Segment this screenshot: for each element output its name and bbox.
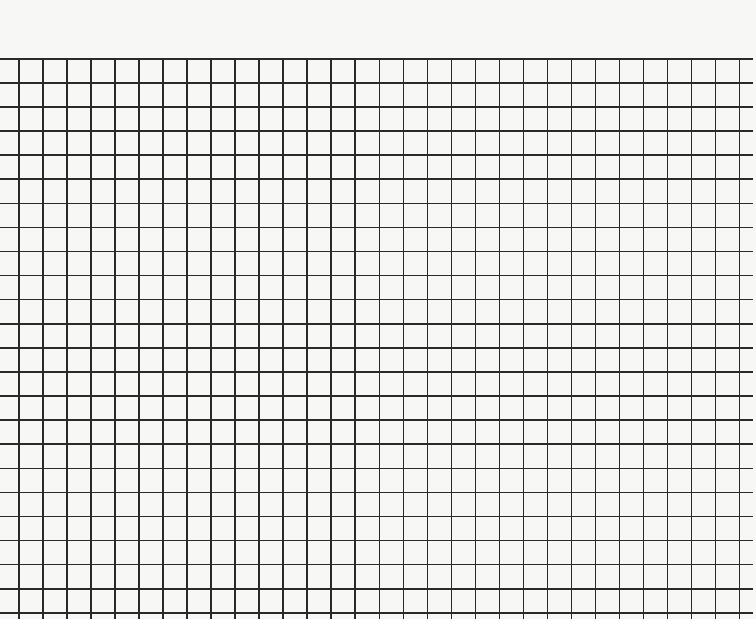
grid-vertical-line [571, 58, 573, 619]
grid-horizontal-line [0, 540, 753, 542]
grid-vertical-line [691, 58, 693, 619]
grid-vertical-line [427, 58, 429, 619]
grid-vertical-line [210, 58, 212, 619]
grid-horizontal-line [0, 299, 753, 301]
grid-vertical-line [739, 58, 741, 619]
grid-vertical-line [643, 58, 645, 619]
grid-horizontal-line [0, 419, 753, 421]
grid-horizontal-line [0, 227, 753, 229]
grid-horizontal-line [0, 178, 753, 180]
grid-horizontal-line [0, 251, 753, 253]
grid-horizontal-line [0, 130, 753, 132]
grid-vertical-line [619, 58, 621, 619]
grid-vertical-line [330, 58, 332, 619]
grid-horizontal-line [0, 588, 753, 590]
grid-vertical-line [403, 58, 405, 619]
grid-horizontal-line [0, 58, 753, 60]
grid-horizontal-line [0, 203, 753, 205]
grid-vertical-line [114, 58, 116, 619]
grid-vertical-line [547, 58, 549, 619]
grid-horizontal-line [0, 516, 753, 518]
grid-vertical-line [66, 58, 68, 619]
grid-vertical-line [162, 58, 164, 619]
grid-vertical-line [354, 58, 356, 619]
grid-vertical-line [715, 58, 717, 619]
grid-vertical-line [18, 58, 20, 619]
grid-horizontal-line [0, 395, 753, 397]
grid-horizontal-line [0, 154, 753, 156]
grid-vertical-line [379, 58, 381, 619]
grid-vertical-line [42, 58, 44, 619]
grid-horizontal-line [0, 612, 753, 614]
grid-horizontal-line [0, 564, 753, 566]
grid-horizontal-line [0, 468, 753, 470]
grid-vertical-line [90, 58, 92, 619]
grid-vertical-line [186, 58, 188, 619]
grid-vertical-line [234, 58, 236, 619]
grid-vertical-line [258, 58, 260, 619]
grid-horizontal-line [0, 275, 753, 277]
grid-horizontal-line [0, 82, 753, 84]
grid-vertical-line [523, 58, 525, 619]
grid-vertical-line [595, 58, 597, 619]
grid-vertical-line [451, 58, 453, 619]
graph-paper-sheet [0, 0, 756, 619]
grid-horizontal-line [0, 492, 753, 494]
grid-horizontal-line [0, 323, 753, 325]
grid-vertical-line [499, 58, 501, 619]
grid-vertical-line [667, 58, 669, 619]
grid-horizontal-line [0, 371, 753, 373]
grid-horizontal-line [0, 443, 753, 445]
grid-vertical-line [306, 58, 308, 619]
grid-horizontal-line [0, 347, 753, 349]
grid-horizontal-line [0, 106, 753, 108]
grid-vertical-line [138, 58, 140, 619]
grid-vertical-line [475, 58, 477, 619]
grid-vertical-line [282, 58, 284, 619]
